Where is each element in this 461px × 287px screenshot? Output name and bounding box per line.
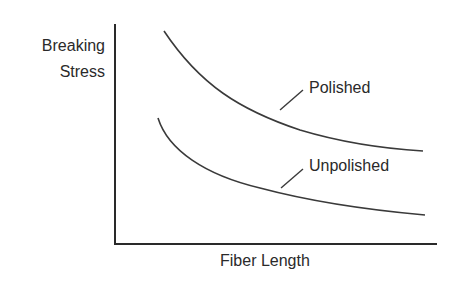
polished-series-label: Polished bbox=[309, 78, 370, 97]
x-axis-label: Fiber Length bbox=[220, 251, 310, 270]
polished-curve bbox=[164, 31, 423, 151]
unpolished-leader-line bbox=[281, 169, 303, 188]
unpolished-series-label: Unpolished bbox=[309, 156, 389, 175]
y-axis-label-line2: Stress bbox=[60, 62, 105, 81]
y-axis-label-line1: Breaking bbox=[42, 36, 105, 55]
polished-leader-line bbox=[280, 90, 303, 110]
